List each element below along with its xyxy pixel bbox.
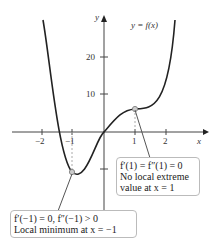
tick-20: 20	[86, 52, 95, 62]
tick-2: 2	[163, 136, 168, 146]
annotation-left: f′(−1) = 0, f″(−1) > 0Local minimum at x…	[10, 210, 137, 238]
y-label: y	[95, 12, 99, 22]
curve-label: y = f(x)	[131, 20, 158, 30]
tick-10: 10	[86, 89, 95, 99]
tick-1: 1	[132, 136, 137, 146]
tick-m1: −1	[65, 136, 75, 146]
x-label: x	[197, 136, 201, 146]
tick-m2: −2	[35, 136, 45, 146]
annotation-right: f′(1) = f″(1) = 0No local extremevalue a…	[116, 157, 200, 196]
curve	[43, 20, 175, 174]
